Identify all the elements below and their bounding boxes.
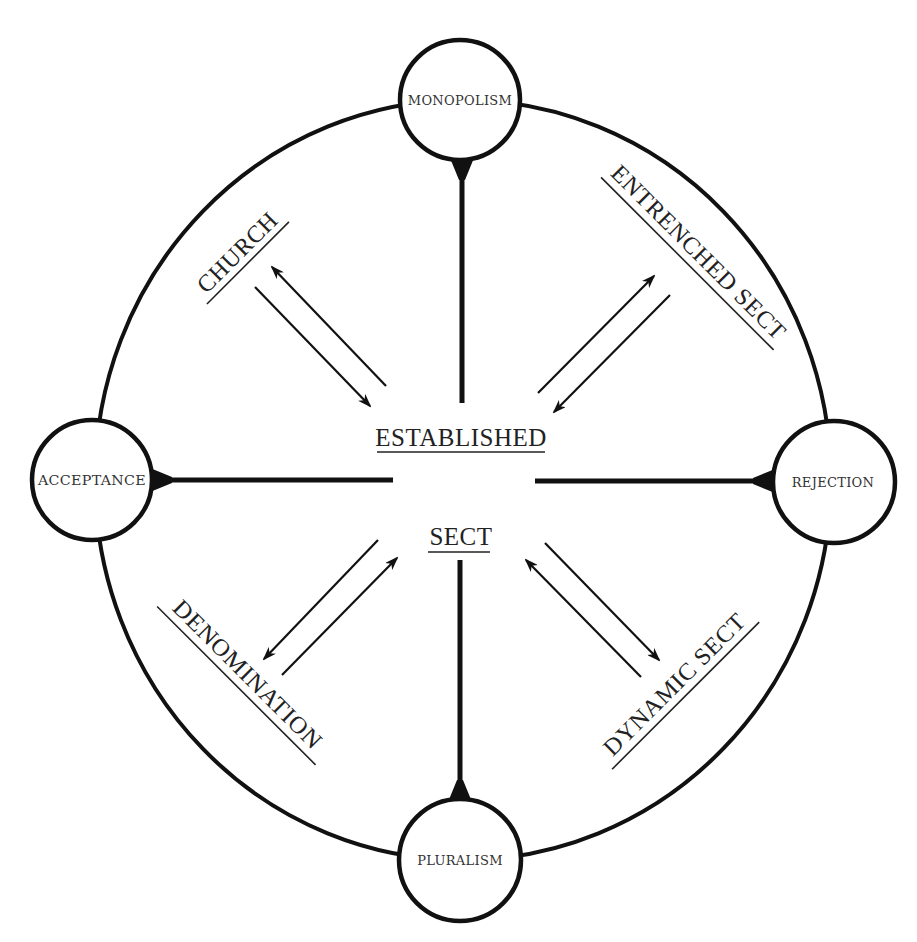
arrow-dynamic-to-established — [526, 560, 641, 677]
pole-label-acceptance: ACCEPTANCE — [37, 473, 146, 488]
arrow-established-to-entrenched — [538, 276, 654, 393]
arrow-entrenched-to-established — [554, 295, 670, 412]
pole-bottom: PLURALISM — [399, 799, 521, 921]
arrow-established-to-church — [272, 267, 386, 386]
quadrant-dynamic-sect: DYNAMIC SECT — [592, 602, 760, 770]
quadrant-church: CHURCH — [187, 202, 289, 304]
quadrant-label-dynamic-sect: DYNAMIC SECT — [598, 608, 751, 761]
pole-right: REJECTION — [773, 421, 895, 543]
pole-label-rejection: REJECTION — [792, 475, 874, 490]
pole-left: ACCEPTANCE — [32, 420, 152, 540]
center-label-established: ESTABLISHED — [375, 424, 547, 451]
pole-label-monopolism: MONOPOLISM — [408, 93, 512, 108]
pole-top: MONOPOLISM — [400, 40, 520, 160]
arrow-denomination-to-established — [282, 558, 397, 675]
arrow-established-to-dynamic — [545, 543, 659, 660]
pole-label-pluralism: PLURALISM — [417, 853, 503, 868]
church-sect-typology-diagram: MONOPOLISM ACCEPTANCE REJECTION PLURALIS… — [0, 0, 917, 942]
center-label-sect: SECT — [429, 523, 492, 550]
center-label: ESTABLISHED SECT — [375, 424, 547, 552]
arrow-church-to-established — [255, 287, 370, 406]
quadrant-label-church: CHURCH — [192, 207, 283, 298]
arrow-established-to-denomination — [264, 540, 378, 659]
